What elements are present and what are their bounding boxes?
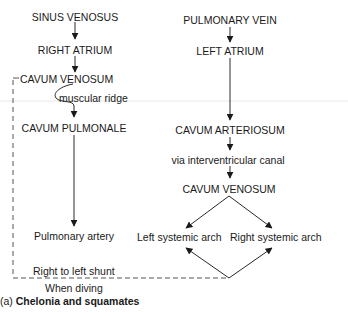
label-muscular-ridge: muscular ridge: [59, 92, 128, 104]
label-via-interventricular-canal: via interventricular canal: [171, 154, 284, 166]
label-right-atrium: RIGHT ATRIUM: [38, 44, 112, 56]
caption-prefix: (a): [0, 295, 13, 307]
arrow-to-right-systemic-arch: [229, 196, 272, 228]
label-right-systemic-arch: Right systemic arch: [230, 231, 322, 243]
label-cavum-venosum-right: CAVUM VENOSUM: [182, 183, 275, 195]
figure-caption: (a) Chelonia and squamates: [0, 295, 139, 307]
label-cavum-arteriosum: CAVUM ARTERIOSUM: [175, 124, 284, 136]
label-left-atrium: LEFT ATRIUM: [196, 45, 263, 57]
label-left-systemic-arch: Left systemic arch: [137, 231, 222, 243]
label-right-to-left-shunt: Right to left shunt: [33, 265, 115, 277]
caption-title: Chelonia and squamates: [16, 295, 140, 307]
label-cavum-venosum-left: CAVUM VENOSUM: [20, 73, 113, 85]
label-pulmonary-artery: Pulmonary artery: [34, 230, 114, 242]
arrow-shunt-to-right-systemic-arch: [229, 248, 272, 278]
arrow-shunt-to-left-systemic-arch: [186, 248, 229, 278]
label-sinus-venosus: SINUS VENOSUS: [32, 11, 118, 23]
label-when-diving: When diving: [45, 282, 103, 294]
label-cavum-pulmonale: CAVUM PULMONALE: [22, 122, 127, 134]
label-pulmonary-vein: PULMONARY VEIN: [183, 14, 277, 26]
arrow-to-left-systemic-arch: [186, 196, 229, 228]
